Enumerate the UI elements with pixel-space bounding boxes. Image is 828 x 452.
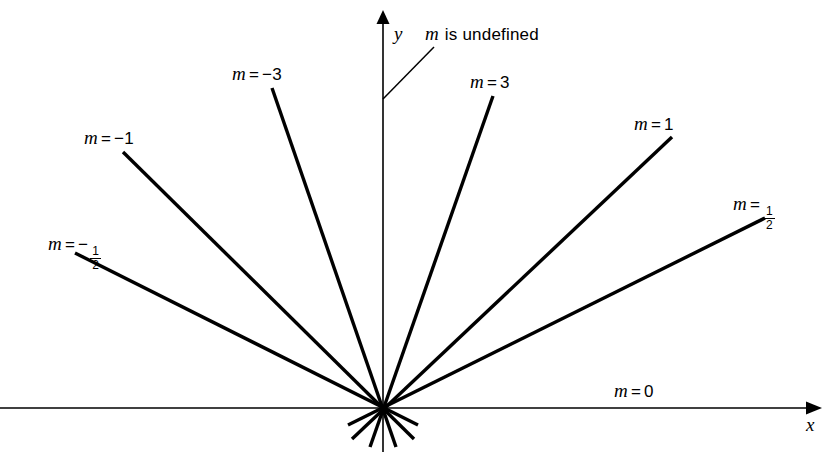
line-slope-neg-1 [123, 152, 414, 439]
label-m-neg-half: m=−12 [48, 234, 101, 271]
label-m-1-variable: m [634, 113, 649, 134]
undefined-leader-line [383, 47, 434, 99]
label-m-half-fraction: 12 [764, 205, 775, 231]
label-m-0-equals: = [629, 382, 644, 401]
label-m-neg-3-value: −3 [262, 65, 282, 84]
label-m-neg-3: m=−3 [232, 64, 282, 83]
line-slope-3 [370, 96, 493, 447]
y-axis-label: y [394, 24, 402, 43]
line-slope-neg-half [75, 253, 418, 425]
label-m-0: m=0 [614, 381, 654, 400]
label-m-half-equals: = [748, 195, 763, 214]
x-axis-arrowhead [806, 402, 822, 415]
label-m-neg-3-variable: m [232, 63, 247, 84]
label-m-neg-1: m=−1 [84, 128, 134, 147]
label-m-neg-half-equals: = [63, 235, 78, 254]
line-slope-neg-3 [272, 88, 396, 447]
label-m-neg-half-variable: m [48, 233, 63, 254]
label-m-3-variable: m [470, 71, 485, 92]
label-m-half-numerator: 1 [764, 205, 775, 217]
coordinate-plane-svg [0, 0, 828, 452]
label-m-neg-half-denominator: 2 [90, 259, 101, 271]
label-m-0-variable: m [614, 380, 629, 401]
label-m-3-equals: = [485, 73, 500, 92]
label-m-neg-half-fraction: 12 [90, 245, 101, 271]
label-m-half: m=12 [733, 194, 775, 231]
label-m-0-value: 0 [644, 382, 654, 401]
label-m-1: m=1 [634, 114, 674, 133]
label-m-half-variable: m [733, 193, 748, 214]
label-m-3-value: 3 [500, 73, 510, 92]
label-m-1-value: 1 [664, 115, 674, 134]
label-m-3: m=3 [470, 72, 510, 91]
label-m-neg-half-numerator: 1 [90, 245, 101, 257]
y-axis-arrowhead [377, 10, 390, 24]
label-m-neg-3-equals: = [247, 65, 262, 84]
slope-diagram-figure: y x m is undefined m=−12 m=−1 m=−3 m=3 m… [0, 0, 828, 452]
line-slope-half [348, 218, 765, 425]
label-m-neg-1-equals: = [99, 129, 114, 148]
label-m-neg-1-variable: m [84, 127, 99, 148]
label-m-undefined: m is undefined [425, 24, 539, 43]
label-m-1-equals: = [649, 115, 664, 134]
label-m-neg-1-value: −1 [114, 129, 134, 148]
x-axis-label: x [806, 415, 814, 434]
label-m-neg-half-sign: − [78, 235, 89, 254]
label-m-undefined-variable: m [425, 23, 440, 44]
label-m-half-denominator: 2 [764, 219, 775, 231]
label-m-undefined-text: is undefined [440, 25, 539, 44]
